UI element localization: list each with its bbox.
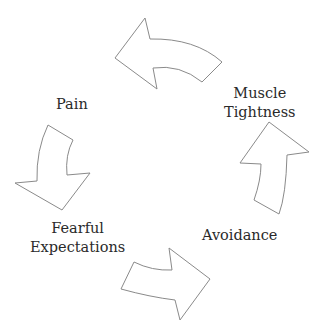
cycle-diagram: Muscle Tightness Pain Fearful Expectatio… <box>0 0 322 333</box>
arrow-right-icon <box>121 248 210 320</box>
node-label-line1: Avoidance <box>202 226 277 245</box>
node-label-line2: Tightness <box>224 103 296 122</box>
node-label-line1: Pain <box>56 95 88 114</box>
node-pain: Pain <box>56 95 88 114</box>
node-fearful-expectations: Fearful Expectations <box>30 219 125 257</box>
arrow-up-icon <box>240 122 309 214</box>
arrows-layer <box>0 0 322 333</box>
node-avoidance: Avoidance <box>202 226 277 245</box>
node-label-line1: Muscle <box>224 84 296 103</box>
node-label-line2: Expectations <box>30 238 125 257</box>
arrow-down-icon <box>15 125 90 210</box>
node-muscle-tightness: Muscle Tightness <box>224 84 296 122</box>
arrow-left-icon <box>115 18 222 89</box>
node-label-line1: Fearful <box>30 219 125 238</box>
